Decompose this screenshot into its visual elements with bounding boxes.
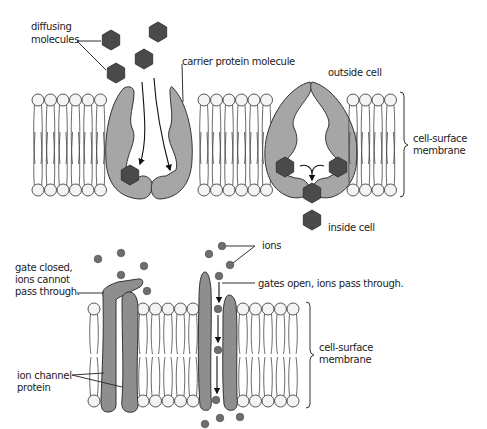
label-diffusing-line2: molecules <box>31 34 79 45</box>
label-ion-channel-line1: ion channel <box>17 370 72 381</box>
lipid-bilayer-middle <box>137 303 199 407</box>
arrow-down-right <box>154 78 170 170</box>
label-membrane-line2: membrane <box>413 145 465 156</box>
label-carrier-protein: carrier protein molecule <box>182 56 295 67</box>
membrane-brace <box>400 92 408 197</box>
membrane-transport-diagram: diffusing molecules carrier protein mole… <box>0 0 487 429</box>
lipid-bilayer-middle <box>198 94 273 196</box>
label-membrane-line2: membrane <box>319 354 371 365</box>
label-gate-closed-line2: ions cannot <box>15 274 70 285</box>
label-membrane-line1: cell-surface <box>319 342 373 353</box>
molecule <box>102 30 119 50</box>
label-inside-cell: inside cell <box>328 222 375 233</box>
arrow-down-left <box>140 82 145 164</box>
label-diffusing-line1: diffusing <box>31 21 71 32</box>
top-panel-carrier-protein: diffusing molecules carrier protein mole… <box>31 21 467 233</box>
bottom-panel-ion-channel: ions gates open, ions pass through. gate… <box>15 240 404 428</box>
label-ion-channel-line2: protein <box>17 382 50 393</box>
carrier-protein-open-outside <box>106 87 193 199</box>
molecule-released <box>303 210 320 230</box>
label-gate-closed-line1: gate closed, <box>15 262 73 273</box>
label-membrane-line1: cell-surface <box>413 133 467 144</box>
molecule <box>107 63 124 83</box>
ion-channel-closed <box>101 279 143 412</box>
carrier-protein-open-inside <box>265 82 357 198</box>
label-gate-closed-line3: pass through. <box>15 286 80 297</box>
lipid-bilayer-left <box>88 303 100 407</box>
label-ions: ions <box>262 240 281 251</box>
molecule <box>149 22 166 42</box>
lipid-bilayer-right <box>237 303 299 407</box>
membrane-brace <box>306 302 314 408</box>
lipid-bilayer-left <box>32 94 107 196</box>
molecule <box>135 49 152 69</box>
label-gates-open: gates open, ions pass through. <box>258 278 404 289</box>
label-outside-cell: outside cell <box>328 67 382 78</box>
